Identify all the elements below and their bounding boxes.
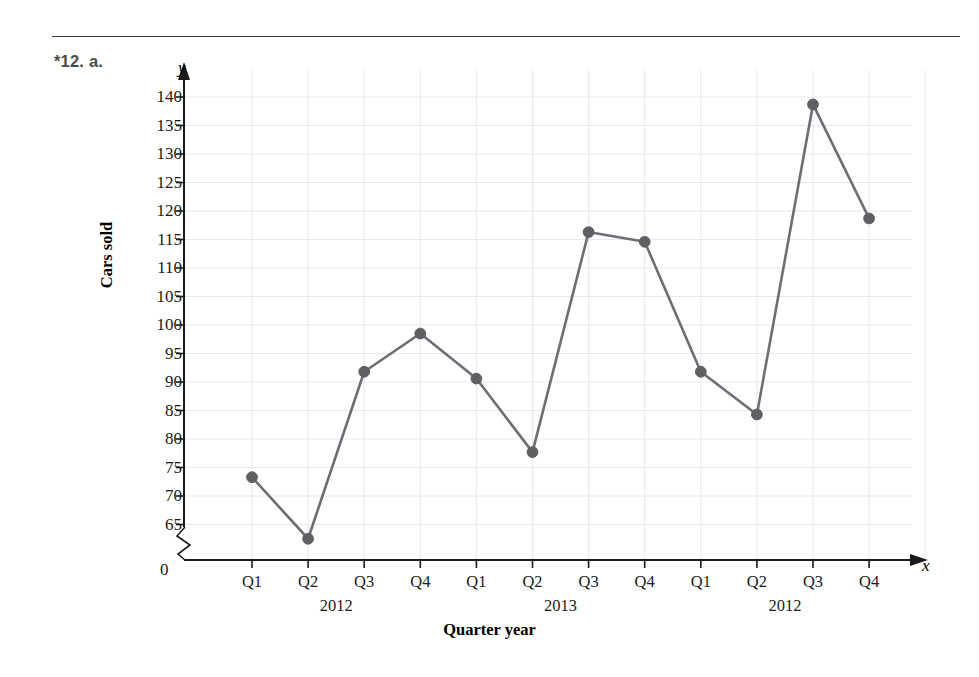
y-tick-label: 135 [157, 117, 183, 134]
axis-ticks [176, 97, 869, 568]
y-tick-label: 120 [157, 202, 183, 219]
x-axis-letter: x [922, 556, 930, 576]
data-point [415, 328, 426, 339]
axis-lines [177, 62, 928, 566]
x-tick-label: Q1 [691, 572, 711, 592]
data-point [527, 447, 538, 458]
y-tick-label: 80 [165, 430, 182, 447]
data-point [471, 373, 482, 384]
data-point [695, 366, 706, 377]
y-tick-label: 110 [157, 259, 182, 276]
y-tick-label: 85 [165, 402, 182, 419]
y-tick-label: 140 [157, 88, 183, 105]
data-point [752, 409, 763, 420]
y-tick-label: 100 [157, 316, 183, 333]
data-point [247, 472, 258, 483]
data-series [247, 99, 875, 544]
x-tick-label: Q4 [859, 572, 879, 592]
x-group-label: 2012 [320, 596, 353, 616]
x-group-label: 2012 [768, 596, 801, 616]
x-tick-label: Q2 [522, 572, 542, 592]
x-tick-label: Q1 [466, 572, 486, 592]
x-tick-label: Q3 [579, 572, 599, 592]
data-point [639, 236, 650, 247]
y-tick-label: 105 [157, 288, 183, 305]
x-tick-label: Q3 [354, 572, 374, 592]
y-tick-label-group: 6570758085909510010511011512012513013514… [136, 0, 182, 677]
data-point [808, 99, 819, 110]
x-tick-label: Q4 [410, 572, 430, 592]
data-point [359, 366, 370, 377]
x-group-label: 2013 [544, 596, 577, 616]
x-tick-label: Q2 [747, 572, 767, 592]
x-tick-label: Q3 [803, 572, 823, 592]
data-point [303, 533, 314, 544]
y-tick-label: 75 [165, 459, 182, 476]
y-tick-label: 125 [157, 174, 183, 191]
origin-label: 0 [160, 560, 169, 580]
y-axis-letter: y [178, 58, 186, 78]
y-tick-label: 70 [165, 487, 182, 504]
data-point [583, 227, 594, 238]
data-point [864, 213, 875, 224]
gridlines [184, 70, 925, 560]
x-tick-label: Q1 [242, 572, 262, 592]
y-tick-label: 90 [165, 373, 182, 390]
line-chart-figure: Cars sold Quarter year 65707580859095100… [0, 0, 979, 677]
y-tick-label: 95 [165, 345, 182, 362]
y-tick-label: 115 [157, 231, 182, 248]
x-tick-label: Q2 [298, 572, 318, 592]
y-tick-label: 65 [165, 516, 182, 533]
y-axis-title: Cars sold [97, 190, 117, 320]
x-tick-label: Q4 [635, 572, 655, 592]
y-tick-label: 130 [157, 145, 183, 162]
